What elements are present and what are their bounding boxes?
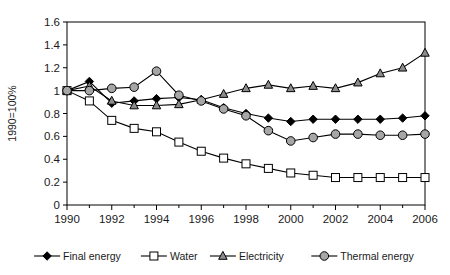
legend-label: Final energy — [63, 250, 122, 262]
legend-label: Thermal energy — [340, 250, 414, 262]
data-point-marker — [264, 164, 272, 172]
x-tick-label: 1996 — [188, 213, 214, 225]
data-point-marker — [309, 133, 318, 142]
data-point-marker — [264, 126, 273, 135]
data-point-marker — [107, 84, 116, 93]
data-point-marker — [376, 131, 385, 140]
data-point-marker — [242, 160, 250, 168]
data-point-marker — [85, 86, 94, 95]
data-point-marker — [376, 115, 384, 123]
data-point-marker — [421, 112, 429, 120]
data-point-marker — [309, 81, 317, 89]
data-point-marker — [354, 115, 362, 123]
data-point-marker — [197, 147, 205, 155]
data-point-marker — [219, 251, 227, 259]
data-point-marker — [242, 111, 251, 120]
y-tick-label: 0.4 — [44, 153, 61, 165]
data-point-marker — [287, 169, 295, 177]
data-point-marker — [309, 115, 317, 123]
data-point-marker — [152, 67, 161, 76]
data-series-group — [63, 48, 430, 181]
data-point-marker — [197, 97, 206, 106]
data-point-marker — [398, 131, 407, 140]
x-tick-label: 1990 — [54, 213, 80, 225]
data-point-marker — [150, 252, 158, 260]
y-tick-label: 0.2 — [44, 176, 60, 188]
legend-item-thermal-energy[interactable]: Thermal energy — [311, 250, 414, 262]
legend-label: Water — [170, 250, 198, 262]
data-point-marker — [398, 114, 406, 122]
x-tick-label: 2006 — [412, 213, 438, 225]
y-tick-label: 1.6 — [44, 16, 60, 28]
data-point-marker — [43, 252, 51, 260]
data-point-marker — [320, 252, 329, 261]
data-point-marker — [175, 91, 184, 100]
data-point-marker — [421, 174, 429, 182]
series-line — [67, 53, 425, 106]
data-point-marker — [376, 174, 384, 182]
x-tick-label: 1992 — [99, 213, 125, 225]
data-point-marker — [286, 137, 295, 146]
series-electricity — [63, 48, 429, 109]
x-tick-label: 1998 — [233, 213, 259, 225]
y-tick-label: 0 — [54, 199, 60, 211]
data-point-marker — [421, 130, 430, 139]
data-point-marker — [287, 117, 295, 125]
data-point-marker — [264, 114, 272, 122]
x-tick-label: 2002 — [323, 213, 349, 225]
data-point-marker — [130, 124, 138, 132]
series-line — [67, 71, 425, 141]
y-tick-label: 1.2 — [44, 62, 60, 74]
data-point-marker — [85, 97, 93, 105]
data-point-marker — [331, 130, 340, 139]
series-water — [63, 87, 429, 182]
data-point-marker — [354, 130, 363, 139]
y-axis-title-text: 1990=100% — [6, 85, 18, 141]
x-tick-label: 2004 — [367, 213, 393, 225]
data-point-marker — [332, 174, 340, 182]
y-tick-label: 0.8 — [44, 108, 60, 120]
legend-label: Electricity — [239, 250, 285, 262]
data-point-marker — [130, 83, 139, 92]
legend-item-final-energy[interactable]: Final energy — [34, 250, 122, 262]
y-tick-label: 1 — [54, 85, 60, 97]
series-thermal-energy — [63, 67, 430, 145]
data-point-marker — [264, 80, 272, 88]
data-point-marker — [153, 128, 161, 136]
data-point-marker — [63, 86, 72, 95]
y-tick-label: 0.6 — [44, 130, 60, 142]
legend-item-water[interactable]: Water — [141, 250, 198, 262]
x-tick-label: 2000 — [278, 213, 304, 225]
line-chart: 00.20.40.60.811.21.41.6 1990199219941996… — [0, 0, 450, 275]
data-point-marker — [108, 116, 116, 124]
data-point-marker — [399, 174, 407, 182]
data-point-marker — [421, 48, 429, 56]
data-point-marker — [398, 63, 406, 71]
data-point-marker — [354, 174, 362, 182]
data-point-marker — [220, 154, 228, 162]
y-axis-title: 1990=100% — [6, 85, 18, 141]
chart-legend: Final energyWaterElectricityThermal ener… — [34, 250, 414, 262]
data-point-marker — [175, 138, 183, 146]
data-point-marker — [309, 171, 317, 179]
y-tick-label: 1.4 — [44, 39, 61, 51]
y-axis-ticks: 00.20.40.60.811.21.41.6 — [44, 16, 67, 211]
x-tick-label: 1994 — [144, 213, 170, 225]
data-point-marker — [331, 115, 339, 123]
chart-figure: 00.20.40.60.811.21.41.6 1990199219941996… — [0, 0, 450, 275]
legend-item-electricity[interactable]: Electricity — [210, 250, 285, 262]
x-axis-ticks: 199019921994199619982000200220042006 — [54, 205, 438, 225]
data-point-marker — [219, 105, 228, 114]
